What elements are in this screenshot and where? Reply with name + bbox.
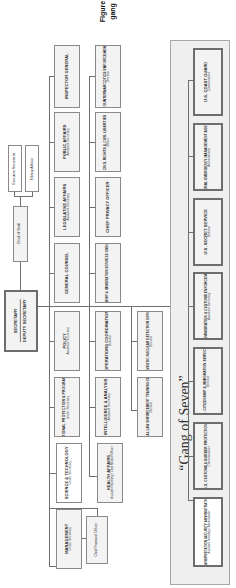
box-subtitle: Assistant Secretary: [208, 272, 211, 340]
box-subtitle: Assistant Secretary: [67, 125, 70, 159]
secretary-title: SECRETARY: [14, 299, 18, 342]
box-title: Chief Financial Officer: [95, 523, 99, 556]
military-advisor-label: Military Advisor: [30, 157, 34, 180]
box-subtitle: Administrator: [208, 123, 211, 191]
deputy-secretary-title: DEPUTY SECRETARY: [24, 299, 28, 342]
ombudsman-box: CITIZENSHIP & IMMIGRATION SERVICES OMBUD…: [95, 243, 121, 303]
tsa-box: TRANSPORTATION SECURITY ADMINISTRATIONAs…: [193, 497, 223, 567]
coast-guard-box: U.S. COAST GUARDCommandant: [193, 48, 223, 116]
intelligence-analysis-box: INTELLIGENCE & ANALYSISAssistant Secreta…: [95, 377, 121, 437]
box-subtitle: Director: [150, 311, 153, 371]
box-subtitle: Under Secretary: [69, 524, 72, 554]
chief-of-staff-label: Chief of Staff: [19, 224, 23, 245]
box-subtitle: Director: [208, 209, 211, 255]
box-subtitle: Assistant Secretary / Chief Medical Offi…: [111, 447, 114, 499]
legislative-affairs-box: LEGISLATIVE AFFAIRSAssistant Secretary: [54, 177, 80, 237]
figure-caption-line2: gang: [109, 3, 116, 20]
box-subtitle: Commandant: [208, 62, 211, 102]
civil-rights-box: CIVIL RIGHTS & CIVIL LIBERTIESOfficer: [95, 112, 121, 172]
box-subtitle: Assistant Secretary: [108, 379, 111, 435]
national-protection-box: NATIONAL PROTECTION & PROGRAMSUnder Secr…: [54, 377, 80, 437]
box-subtitle: Director: [108, 45, 111, 108]
chief-of-staff-box: Chief of Staff: [13, 206, 28, 262]
management-box: MANAGEMENTUnder Secretary: [56, 509, 82, 569]
operations-coordination-box: OPERATIONS COORDINATIONDirector: [95, 311, 121, 371]
health-affairs-box: HEALTH AFFAIRSAssistant Secretary / Chie…: [97, 443, 123, 503]
box-subtitle: Director: [150, 377, 153, 437]
domestic-nuclear-detection-box: DOMESTIC NUCLEAR DETECTION OFFICEDirecto…: [137, 311, 163, 371]
box-subtitle: Director: [208, 347, 211, 415]
chief-financial-officer-box: Chief Financial Officer: [86, 516, 108, 564]
science-technology-box: SCIENCE & TECHNOLOGYUnder Secretary: [56, 443, 82, 503]
box-subtitle: Assistant Secretary / Administrator: [208, 497, 211, 567]
military-advisor-box: Military Advisor: [25, 145, 39, 192]
inspector-general-box: INSPECTOR GENERAL: [54, 45, 80, 108]
ice-box: U.S. IMMIGRATION & CUSTOMS ENFORCEMENTAs…: [193, 272, 223, 340]
executive-secretariat-label: Executive Secretariat: [13, 152, 17, 184]
counternarcotics-box: COUNTERNARCOTICS ENFORCEMENTDirector: [95, 45, 121, 108]
fletc-box: FEDERAL LAW ENFORCEMENT TRAINING CENTERD…: [137, 377, 163, 437]
policy-box: POLICYAssistant Secretary: [54, 311, 80, 371]
box-subtitle: Assistant Secretary: [67, 184, 70, 230]
box-title: GENERAL COUNSEL: [65, 252, 69, 294]
box-subtitle: Under Secretary: [67, 377, 70, 437]
secretary-box: SECRETARY DEPUTY SECRETARY: [4, 290, 38, 352]
general-counsel-box: GENERAL COUNSEL: [54, 243, 80, 303]
executive-secretariat-box: Executive Secretariat: [8, 145, 22, 192]
box-subtitle: Officer: [108, 114, 111, 169]
box-title: INSPECTOR GENERAL: [65, 54, 69, 100]
box-subtitle: Assistant Secretary: [67, 327, 70, 354]
figure-caption-line1: Figure: [99, 1, 106, 22]
public-affairs-box: PUBLIC AFFAIRSAssistant Secretary: [54, 112, 80, 172]
box-title: CITIZENSHIP & IMMIGRATION SERVICES OMBUD…: [106, 243, 109, 303]
uscis-box: U.S. CITIZENSHIP & IMMIGRATION SERVICESD…: [193, 347, 223, 415]
box-title: CHIEF PRIVACY OFFICER: [106, 181, 110, 232]
cbp-box: U.S. CUSTOMS & BORDER PROTECTIONCommissi…: [193, 422, 223, 490]
box-subtitle: Director: [108, 311, 111, 371]
chief-privacy-officer-box: CHIEF PRIVACY OFFICER: [95, 177, 121, 237]
box-subtitle: Under Secretary: [69, 446, 72, 499]
fema-box: FEDERAL EMERGENCY MANAGEMENT AGENCYAdmin…: [193, 123, 223, 191]
secret-service-box: U.S. SECRET SERVICEDirector: [193, 198, 223, 266]
box-subtitle: Commissioner: [208, 423, 211, 489]
